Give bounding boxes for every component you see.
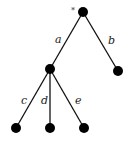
node-root xyxy=(78,7,88,17)
root-marker: * xyxy=(71,6,75,15)
label-e: e xyxy=(75,94,82,107)
label-c: c xyxy=(21,94,27,107)
node-leaf-c xyxy=(11,123,21,133)
node-leaf-b xyxy=(113,66,123,76)
label-a: a xyxy=(55,33,62,46)
node-leaf-d xyxy=(45,123,55,133)
tree-diagram: * a b c d e xyxy=(0,0,131,141)
node-mid xyxy=(45,64,55,74)
label-d: d xyxy=(41,94,48,107)
node-leaf-e xyxy=(79,123,89,133)
label-b: b xyxy=(108,34,115,47)
